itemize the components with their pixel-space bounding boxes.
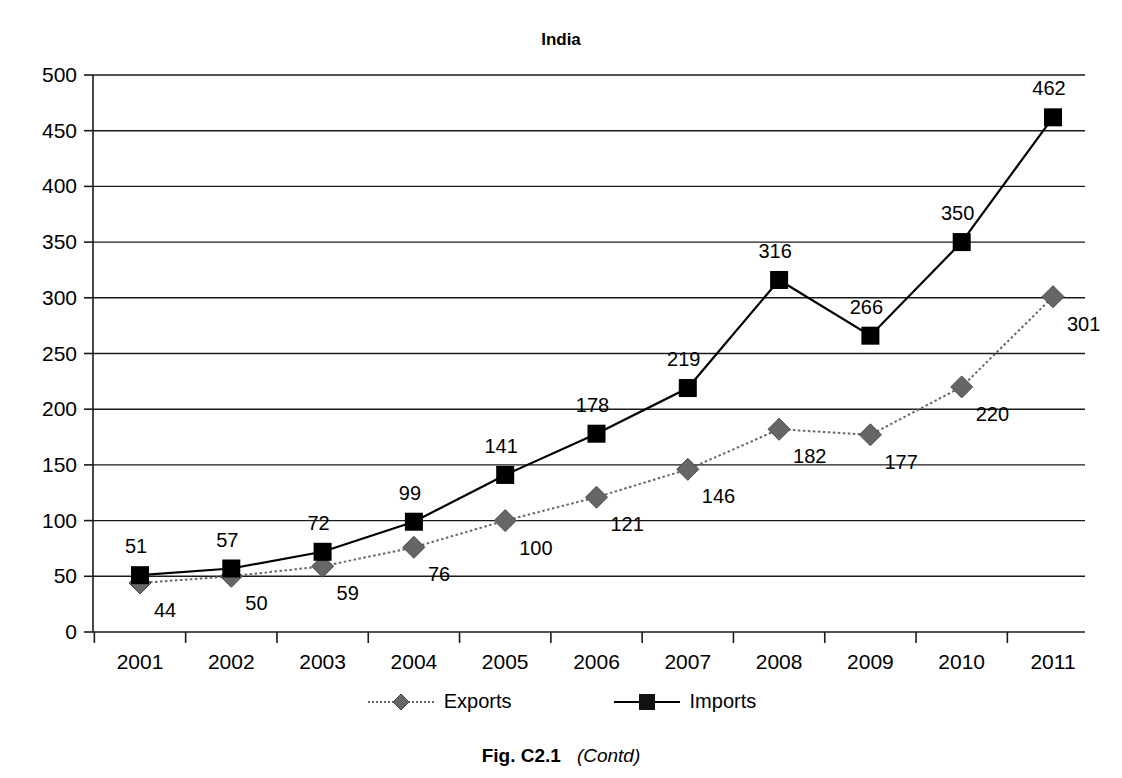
data-point-label: 146 [702, 485, 735, 507]
data-point-marker [588, 425, 606, 443]
data-point-label: 182 [793, 445, 826, 467]
data-point-marker [770, 271, 788, 289]
series-lines [140, 117, 1053, 583]
x-tick-label: 2005 [482, 650, 529, 673]
data-point-label: 50 [245, 592, 267, 614]
data-point-marker [586, 486, 608, 508]
y-tick-label: 100 [42, 509, 77, 532]
gridlines [93, 75, 1085, 632]
data-point-marker [131, 566, 149, 584]
y-tick-label: 250 [42, 342, 77, 365]
data-point-label: 99 [399, 482, 421, 504]
data-point-label: 301 [1067, 313, 1100, 335]
data-point-marker [953, 233, 971, 251]
y-tick-label: 50 [54, 564, 77, 587]
data-point-marker [314, 543, 332, 561]
y-tick-label: 150 [42, 453, 77, 476]
y-axis-tick-labels: 050100150200250300350400450500 [42, 63, 77, 643]
data-point-label: 462 [1032, 77, 1065, 99]
data-point-marker [768, 418, 790, 440]
data-point-label: 177 [884, 451, 917, 473]
y-axis-ticks [84, 75, 93, 632]
x-tick-label: 2001 [117, 650, 164, 673]
data-point-label: 51 [125, 535, 147, 557]
legend-swatch-exports-icon [366, 692, 436, 712]
data-point-label: 266 [850, 296, 883, 318]
legend-swatch-imports-icon [612, 692, 682, 712]
data-point-marker [677, 458, 699, 480]
data-point-label: 72 [307, 512, 329, 534]
legend-label-imports: Imports [690, 690, 757, 713]
data-point-label: 316 [758, 240, 791, 262]
data-point-label: 57 [216, 529, 238, 551]
y-tick-label: 400 [42, 174, 77, 197]
chart-plot-area: 050100150200250300350400450500 200120022… [0, 0, 1122, 690]
data-point-label: 178 [576, 394, 609, 416]
data-point-marker [405, 513, 423, 531]
series-value-labels: 4450597610012114618217722030151577299141… [125, 77, 1101, 621]
data-point-label: 141 [485, 435, 518, 457]
data-point-label: 219 [667, 348, 700, 370]
data-point-marker [1042, 286, 1064, 308]
x-tick-label: 2004 [391, 650, 438, 673]
x-tick-label: 2008 [756, 650, 803, 673]
x-tick-label: 2006 [573, 650, 620, 673]
data-point-label: 121 [611, 513, 644, 535]
data-point-marker [859, 424, 881, 446]
data-point-label: 59 [337, 582, 359, 604]
chart-legend: Exports Imports [0, 690, 1122, 713]
data-point-marker [403, 536, 425, 558]
figure-caption-id: Fig. C2.1 [482, 745, 561, 766]
x-tick-label: 2010 [938, 650, 985, 673]
data-point-label: 220 [976, 403, 1009, 425]
legend-item-imports[interactable]: Imports [612, 690, 757, 713]
legend-label-exports: Exports [444, 690, 512, 713]
x-axis-ticks [94, 632, 1007, 643]
y-tick-label: 350 [42, 230, 77, 253]
data-point-label: 350 [941, 202, 974, 224]
y-tick-label: 450 [42, 119, 77, 142]
x-tick-label: 2003 [299, 650, 346, 673]
legend-item-exports[interactable]: Exports [366, 690, 512, 713]
x-tick-label: 2009 [847, 650, 894, 673]
x-tick-label: 2007 [664, 650, 711, 673]
data-point-label: 76 [428, 563, 450, 585]
data-point-label: 44 [154, 599, 176, 621]
data-point-label: 100 [519, 537, 552, 559]
data-point-marker [861, 327, 879, 345]
data-point-marker [222, 560, 240, 578]
figure-container: India 050100150200250300350400450500 200… [0, 0, 1122, 778]
y-tick-label: 300 [42, 286, 77, 309]
data-point-marker [679, 379, 697, 397]
x-axis-tick-labels: 2001200220032004200520062007200820092010… [117, 650, 1076, 673]
x-tick-label: 2002 [208, 650, 255, 673]
y-tick-label: 200 [42, 397, 77, 420]
data-point-marker [1044, 108, 1062, 126]
figure-caption-note: (Contd) [577, 745, 640, 766]
y-tick-label: 0 [65, 620, 77, 643]
figure-caption: Fig. C2.1(Contd) [0, 745, 1122, 767]
data-point-marker [496, 466, 514, 484]
x-tick-label: 2011 [1030, 650, 1075, 673]
y-tick-label: 500 [42, 63, 77, 86]
data-point-marker [494, 510, 516, 532]
